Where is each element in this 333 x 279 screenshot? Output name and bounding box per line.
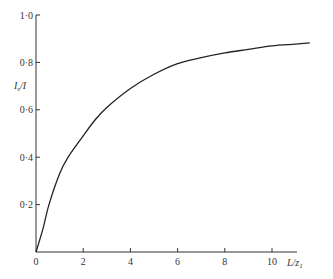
data-curve <box>36 43 310 252</box>
x-tick-label: 10 <box>267 256 277 267</box>
x-axis-label: L/z1 <box>286 257 303 270</box>
x-tick-label: 2 <box>81 256 86 267</box>
axes <box>36 15 297 252</box>
x-tick-label: 8 <box>222 256 227 267</box>
x-tick-label: 6 <box>175 256 180 267</box>
y-tick-label: 0·2 <box>20 199 33 210</box>
x-tick-label: 4 <box>128 256 133 267</box>
chart-canvas: 0·20·40·60·81·0 0246810 Is/I L/z1 <box>0 0 333 279</box>
x-ticks: 0246810 <box>34 248 278 267</box>
y-tick-label: 1·0 <box>20 10 33 21</box>
x-tick-label: 0 <box>34 256 39 267</box>
y-ticks: 0·20·40·60·81·0 <box>20 10 40 211</box>
y-tick-label: 0·4 <box>20 152 33 163</box>
y-axis-label: Is/I <box>13 80 27 93</box>
y-tick-label: 0·6 <box>20 104 33 115</box>
y-tick-label: 0·8 <box>20 57 33 68</box>
